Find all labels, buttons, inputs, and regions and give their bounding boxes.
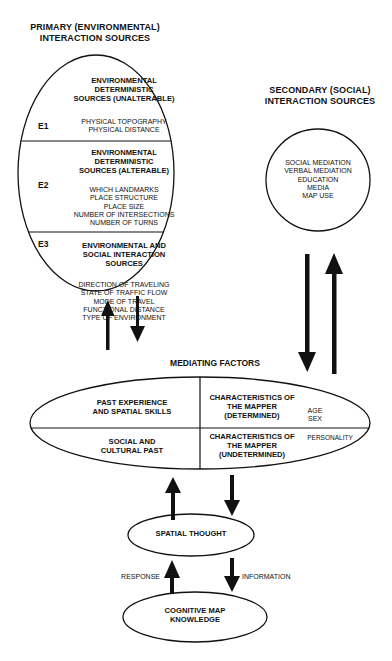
- quadrant-social-cultural: SOCIAL AND CULTURAL PAST: [72, 438, 192, 456]
- quadrant-line: (UNDETERMINED): [204, 451, 300, 460]
- e2-item: WHICH LANDMARKS: [66, 186, 182, 194]
- e3-item: STATE OF TRAFFIC FLOW: [66, 289, 182, 297]
- e2-item: PLACE STRUCTURE: [66, 194, 182, 202]
- e1-heading: ENVIRONMENTAL DETERMINISTIC SOURCES (UNA…: [66, 77, 182, 104]
- e3-heading-line: SOURCES: [66, 260, 182, 269]
- secondary-title-line1: SECONDARY (SOCIAL): [255, 85, 385, 96]
- e2-item: NUMBER OF INTERSECTIONS: [66, 211, 182, 219]
- e1-items: PHYSICAL TOPOGRAPHY PHYSICAL DISTANCE: [66, 118, 182, 135]
- e2-item: PLACE SIZE: [66, 203, 182, 211]
- secondary-title-line2: INTERACTION SOURCES: [255, 96, 385, 107]
- section-id-e3: E3: [38, 239, 58, 249]
- secondary-title: SECONDARY (SOCIAL) INTERACTION SOURCES: [255, 85, 385, 106]
- e2-heading: ENVIRONMENTAL DETERMINISTIC SOURCES (ALT…: [66, 149, 182, 176]
- e1-item: PHYSICAL DISTANCE: [66, 126, 182, 134]
- e1-heading-line: SOURCES (UNALTERABLE): [66, 95, 182, 104]
- e3-items: DIRECTION OF TRAVELING STATE OF TRAFFIC …: [66, 281, 182, 322]
- determined-item: AGE: [300, 407, 330, 415]
- e3-item: FUNCTIONAL DISTANCE: [66, 306, 182, 314]
- secondary-item: MEDIA: [268, 184, 368, 192]
- e2-item: NUMBER OF TURNS: [66, 219, 182, 227]
- undetermined-item: PERSONALITY: [300, 434, 360, 442]
- e2-items: WHICH LANDMARKS PLACE STRUCTURE PLACE SI…: [66, 186, 182, 227]
- primary-title-line1: PRIMARY (ENVIRONMENTAL): [20, 22, 170, 33]
- quadrant-mapper-undetermined: CHARACTERISTICS OF THE MAPPER (UNDETERMI…: [204, 433, 300, 460]
- quadrant-mapper-determined: CHARACTERISTICS OF THE MAPPER (DETERMINE…: [204, 394, 300, 421]
- mediating-factors-title: MEDIATING FACTORS: [160, 358, 270, 368]
- e1-item: PHYSICAL TOPOGRAPHY: [66, 118, 182, 126]
- secondary-items: SOCIAL MEDIATION VERBAL MEDIATION EDUCAT…: [268, 159, 368, 200]
- secondary-item: MAP USE: [268, 192, 368, 200]
- undetermined-items: PERSONALITY: [300, 434, 360, 442]
- e2-heading-line: SOURCES (ALTERABLE): [66, 167, 182, 176]
- section-id-e1: E1: [38, 121, 58, 131]
- e3-item: DIRECTION OF TRAVELING: [66, 281, 182, 289]
- determined-item: SEX: [300, 415, 330, 423]
- e3-heading: ENVIRONMENTAL AND SOCIAL INTERACTION SOU…: [66, 242, 182, 269]
- determined-items: AGE SEX: [300, 407, 330, 424]
- mediating-factors-ellipse: [0, 370, 392, 480]
- e3-item: TYPE OF ENVIRONMENT: [66, 314, 182, 322]
- quadrant-line: AND SPATIAL SKILLS: [72, 408, 192, 417]
- e3-item: MODE OF TRAVEL: [66, 298, 182, 306]
- spatial-thought-label: SPATIAL THOUGHT: [141, 530, 241, 539]
- mediating-thought-arrows: [165, 475, 240, 520]
- information-label: INFORMATION: [242, 573, 312, 581]
- quadrant-line: (DETERMINED): [204, 412, 300, 421]
- cognitive-map-label: COGNITIVE MAP KNOWLEDGE: [145, 607, 245, 625]
- primary-title-line2: INTERACTION SOURCES: [20, 33, 170, 44]
- secondary-item: SOCIAL MEDIATION: [268, 159, 368, 167]
- cognitive-map-line2: KNOWLEDGE: [145, 616, 245, 625]
- quadrant-line: CULTURAL PAST: [72, 447, 192, 456]
- primary-title: PRIMARY (ENVIRONMENTAL) INTERACTION SOUR…: [20, 22, 170, 43]
- secondary-item: VERBAL MEDIATION: [268, 167, 368, 175]
- secondary-item: EDUCATION: [268, 176, 368, 184]
- quadrant-past-experience: PAST EXPERIENCE AND SPATIAL SKILLS: [72, 399, 192, 417]
- response-label: RESPONSE: [110, 573, 160, 581]
- secondary-mediating-arrows: [298, 253, 343, 374]
- thought-knowledge-arrows: [164, 558, 240, 594]
- section-id-e2: E2: [38, 180, 58, 190]
